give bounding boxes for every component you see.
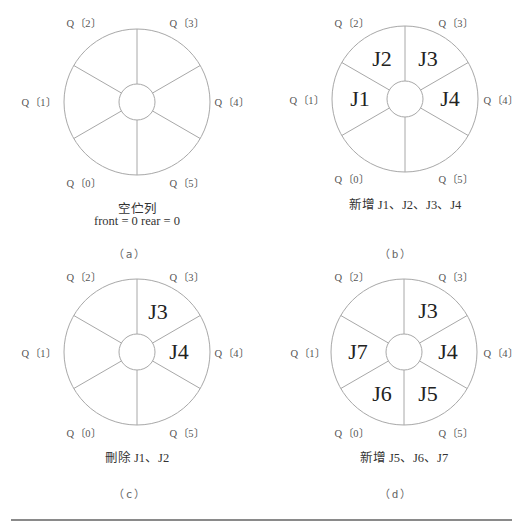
panel-c: Q〔2〕 Q〔3〕 Q〔1〕 Q〔4〕 Q〔0〕 Q〔5〕 J3 J4 刪除 J… xyxy=(0,250,266,500)
slot-content-q5: J5 xyxy=(418,381,438,407)
slot-label-q5: Q〔5〕 xyxy=(170,425,205,440)
slot-content-q3: J3 xyxy=(148,299,168,325)
slot-content-q0: J6 xyxy=(372,381,392,407)
slot-label-q4: Q〔4〕 xyxy=(484,345,519,360)
panel-caption-line1: 新增 J1、J2、J3、J4 xyxy=(349,194,462,213)
slot-label-q1: Q〔1〕 xyxy=(22,94,57,109)
panel-caption-line1: 刪除 J1、J2 xyxy=(105,447,169,466)
slot-label-q4: Q〔4〕 xyxy=(215,94,250,109)
slot-label-q4: Q〔4〕 xyxy=(484,92,519,107)
slot-content-q2: J2 xyxy=(372,46,392,72)
slot-content-q1: J7 xyxy=(348,339,368,365)
slot-label-q5: Q〔5〕 xyxy=(439,171,474,186)
panel-sublabel: （d） xyxy=(379,485,414,501)
panel-b: Q〔2〕 Q〔3〕 Q〔1〕 Q〔4〕 Q〔0〕 Q〔5〕 J1 J2 J3 J… xyxy=(268,0,532,247)
slot-label-q1: Q〔1〕 xyxy=(290,92,325,107)
panel-d: Q〔2〕 Q〔3〕 Q〔1〕 Q〔4〕 Q〔0〕 Q〔5〕 J6 J7 J3 J… xyxy=(267,250,532,500)
slot-label-q5: Q〔5〕 xyxy=(439,425,474,440)
slot-content-q1: J1 xyxy=(350,86,370,112)
slot-label-q2: Q〔2〕 xyxy=(67,269,102,284)
slot-label-q2: Q〔2〕 xyxy=(67,15,102,30)
slot-label-q0: Q〔0〕 xyxy=(67,425,102,440)
panel-sublabel: （c） xyxy=(113,485,148,501)
slot-label-q3: Q〔3〕 xyxy=(170,269,205,284)
slot-label-q2: Q〔2〕 xyxy=(335,15,370,30)
slot-content-q3: J3 xyxy=(418,46,438,72)
slot-label-q3: Q〔3〕 xyxy=(439,269,474,284)
slot-label-q0: Q〔0〕 xyxy=(335,171,370,186)
slot-content-q4: J4 xyxy=(438,339,458,365)
slot-label-q2: Q〔2〕 xyxy=(335,269,370,284)
slot-label-q5: Q〔5〕 xyxy=(170,175,205,190)
slot-label-q0: Q〔0〕 xyxy=(335,425,370,440)
slot-label-q0: Q〔0〕 xyxy=(67,175,102,190)
slot-label-q3: Q〔3〕 xyxy=(439,15,474,30)
panel-caption-line1: 新增 J5、J6、J7 xyxy=(360,447,448,466)
slot-content-q4: J4 xyxy=(440,86,460,112)
slot-label-q1: Q〔1〕 xyxy=(291,345,326,360)
panel-caption-line2: front = 0 rear = 0 xyxy=(94,214,180,229)
slot-label-q4: Q〔4〕 xyxy=(215,345,250,360)
panel-a: Q〔2〕 Q〔3〕 Q〔1〕 Q〔4〕 Q〔0〕 Q〔5〕 空伫列 front … xyxy=(0,0,266,250)
slot-label-q3: Q〔3〕 xyxy=(170,15,205,30)
slot-content-q4: J4 xyxy=(169,339,189,365)
slot-content-q3: J3 xyxy=(418,298,438,324)
slot-label-q1: Q〔1〕 xyxy=(22,345,57,360)
